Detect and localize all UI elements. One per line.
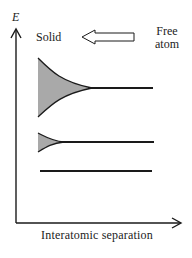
free-atom-label-line2: atom (153, 38, 181, 51)
free-atom-label: Free atom (153, 25, 181, 51)
y-axis-label: E (12, 10, 19, 25)
y-axis (11, 29, 21, 223)
solid-label: Solid (36, 30, 61, 45)
middle-energy-band (38, 133, 154, 152)
upper-energy-band (38, 58, 153, 117)
x-axis (16, 218, 181, 228)
left-arrow-icon (82, 30, 134, 44)
x-axis-label: Interatomic separation (41, 228, 153, 243)
